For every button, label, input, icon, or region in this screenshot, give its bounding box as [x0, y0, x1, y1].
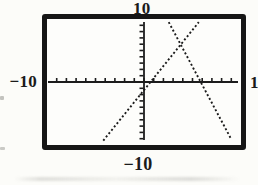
window-ymin-label: −10 — [117, 155, 159, 173]
calculator-screen-figure: 10 −10 1 −10 — [0, 0, 258, 185]
graph-canvas — [47, 19, 241, 145]
scan-speck — [0, 147, 5, 150]
window-xmin-label: −10 — [6, 73, 37, 90]
viewing-window-frame — [42, 14, 246, 150]
window-xmax-label: 1 — [250, 74, 258, 91]
scan-smudge — [14, 177, 240, 181]
scan-speck — [0, 96, 4, 100]
